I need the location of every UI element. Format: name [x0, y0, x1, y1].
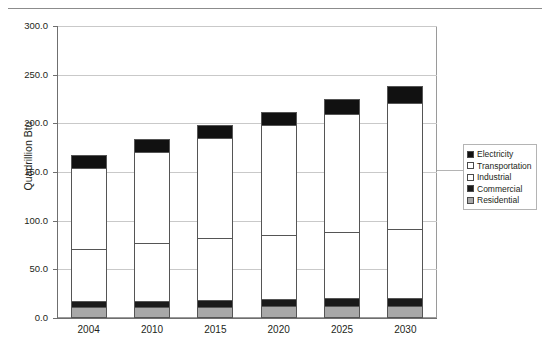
chart-legend: ElectricityTransportationIndustrialComme… — [463, 144, 537, 210]
y-axis-tick-label: 0.0 — [2, 313, 48, 323]
x-axis-tick-label: 2004 — [59, 324, 119, 335]
x-axis-tick-label: 2030 — [375, 324, 435, 335]
legend-item-label: Transportation — [477, 161, 532, 171]
legend-item: Commercial — [467, 183, 532, 194]
bar-segment-commercial — [387, 298, 423, 306]
gridline — [57, 269, 437, 270]
x-axis-tick-label: 2010 — [122, 324, 182, 335]
legend-swatch-icon — [467, 162, 474, 169]
gridline — [57, 26, 437, 27]
bar-segment-industrial — [261, 235, 297, 299]
gridline — [57, 172, 437, 173]
x-axis-tick-label: 2020 — [249, 324, 309, 335]
legend-item-label: Residential — [477, 195, 519, 205]
bar-segment-commercial — [71, 301, 107, 307]
bar-segment-commercial — [197, 300, 233, 307]
bar-segment-electricity — [324, 99, 360, 114]
legend-leader-line — [437, 170, 463, 171]
bar-2025 — [324, 26, 360, 318]
bar-segment-industrial — [387, 229, 423, 298]
bar-segment-commercial — [134, 301, 170, 307]
bar-segment-electricity — [71, 155, 107, 168]
bar-segment-industrial — [134, 243, 170, 301]
x-axis-tick-label: 2015 — [185, 324, 245, 335]
x-axis-baseline — [57, 318, 437, 319]
legend-item-label: Commercial — [477, 184, 522, 194]
bar-2004 — [71, 26, 107, 318]
bar-segment-industrial — [324, 232, 360, 298]
y-axis-title: Quadrillion Btu — [22, 76, 34, 236]
cropped-caption — [10, 0, 510, 6]
bar-segment-commercial — [324, 298, 360, 306]
bar-segment-commercial — [261, 299, 297, 306]
bar-segment-industrial — [197, 238, 233, 300]
y-axis-tick-label: 300.0 — [2, 21, 48, 31]
legend-swatch-icon — [467, 197, 474, 204]
gridline — [57, 75, 437, 76]
bar-segment-electricity — [261, 112, 297, 125]
y-axis-tick-label: 50.0 — [2, 264, 48, 274]
bar-segment-transportation — [387, 103, 423, 229]
bar-segment-transportation — [261, 125, 297, 235]
bar-segment-residential — [324, 306, 360, 318]
legend-item: Electricity — [467, 149, 532, 160]
legend-swatch-icon — [467, 185, 474, 192]
bar-segment-electricity — [197, 125, 233, 138]
bar-segment-transportation — [197, 138, 233, 237]
bar-segment-residential — [261, 306, 297, 318]
legend-item-label: Electricity — [477, 149, 513, 159]
bar-segment-residential — [197, 307, 233, 318]
bar-segment-transportation — [324, 114, 360, 232]
bar-segment-electricity — [387, 86, 423, 104]
legend-item: Industrial — [467, 172, 532, 183]
bar-segment-transportation — [71, 168, 107, 249]
legend-swatch-icon — [467, 151, 474, 158]
bar-segment-transportation — [134, 152, 170, 243]
bar-2030 — [387, 26, 423, 318]
bar-segment-residential — [71, 307, 107, 318]
bar-segment-residential — [134, 307, 170, 318]
bar-2010 — [134, 26, 170, 318]
legend-item: Residential — [467, 195, 532, 206]
bar-2015 — [197, 26, 233, 318]
stacked-bar-chart: 0.050.0100.0150.0200.0250.0300.0 Quadril… — [0, 0, 550, 342]
gridline — [57, 123, 437, 124]
bar-segment-electricity — [134, 139, 170, 152]
x-axis-tick-label: 2025 — [312, 324, 372, 335]
bar-segment-industrial — [71, 249, 107, 302]
y-axis-line — [57, 26, 58, 318]
legend-swatch-icon — [467, 174, 474, 181]
bar-2020 — [261, 26, 297, 318]
legend-item: Transportation — [467, 160, 532, 171]
bar-segment-residential — [387, 306, 423, 318]
top-divider-rule — [8, 8, 542, 9]
gridline — [57, 221, 437, 222]
legend-item-label: Industrial — [477, 172, 512, 182]
